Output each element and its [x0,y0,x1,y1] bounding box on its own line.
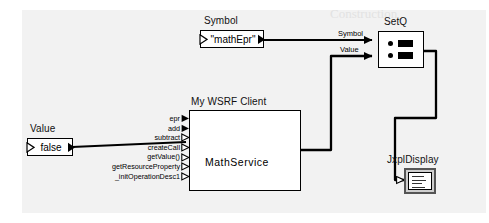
node-value-title: Value [30,123,55,134]
display-text-line [412,176,424,177]
display-icon-frame[interactable] [404,168,436,194]
node-wsrf-title: My WSRF Client [191,96,266,107]
setq-icon-row [388,52,423,59]
symbol-input-port-icon [199,34,208,45]
setq-bar-icon [398,40,413,47]
port-triangle-hollow-icon [181,153,190,162]
port-getvalue[interactable]: getValue() [112,152,190,162]
node-setq[interactable]: SetQ [378,31,424,68]
display-icon-screen [408,172,432,190]
port-createcall[interactable]: createCall [112,143,190,153]
node-wsrf-client[interactable]: My WSRF Client MathService epr add subtr… [189,110,301,191]
setq-dot-icon [388,41,393,46]
node-symbol-const[interactable]: Symbol "mathEpr" [200,30,264,48]
port-triangle-hollow-icon [181,133,190,142]
symbol-value-box[interactable]: "mathEpr" [200,30,264,48]
symbol-output-port-icon [257,34,266,45]
port-triangle-filled-icon [181,124,190,133]
display-text-line [412,180,426,181]
node-display-title: JxplDisplay [387,154,439,165]
port-epr[interactable]: epr [112,114,190,124]
port-triangle-hollow-icon [181,162,190,171]
port-label: subtract [154,133,181,143]
port-subtract[interactable]: subtract [112,133,190,143]
node-value-const[interactable]: Value false [27,138,73,156]
wire-label-value: Value [340,45,359,54]
port-label: _initOperationDesc1 [115,172,181,182]
value-input-port-icon [26,142,35,153]
setq-icon-box[interactable] [378,31,424,68]
mathservice-box[interactable] [189,110,301,191]
node-setq-title: SetQ [384,16,407,27]
value-output-port-icon [67,142,76,153]
node-symbol-title: Symbol [204,15,238,26]
port-triangle-hollow-icon [181,172,190,181]
port-triangle-filled-icon [181,114,190,123]
wire-mathservice-to-setq-value [301,56,372,150]
diagram-canvas: Construction SetQ Symbol input --> MathS… [0,0,489,223]
display-text-line [412,183,422,184]
port-label: add [168,124,181,134]
node-jxpldisplay[interactable]: JxplDisplay [404,168,436,194]
setq-dot-icon [388,53,393,58]
port-label: getResourceProperty [112,162,181,172]
wsrf-port-list: epr add subtract createCall [112,114,190,181]
port-initoperationdesc1[interactable]: _initOperationDesc1 [112,172,190,182]
display-text-line [412,187,425,188]
wire-label-symbol: Symbol [338,29,363,38]
port-add[interactable]: add [112,124,190,134]
port-label: createCall [148,143,181,153]
port-getresourceproperty[interactable]: getResourceProperty [112,162,190,172]
setq-icon-row [388,40,423,47]
port-label: epr [170,114,181,124]
setq-bar-icon [398,52,413,59]
mathservice-label: MathService [205,156,269,168]
port-label: getValue() [147,152,181,162]
port-triangle-hollow-icon [181,143,190,152]
